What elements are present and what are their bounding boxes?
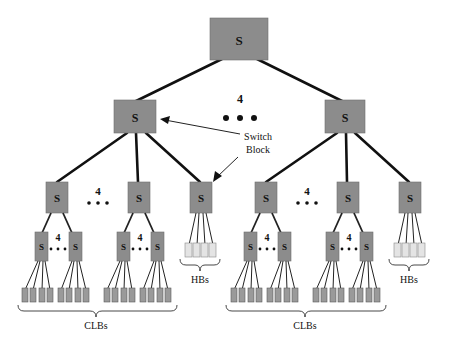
svg-text:S: S (136, 192, 142, 204)
switch-block-label-line1: Switch (244, 131, 272, 142)
svg-text:S: S (73, 242, 78, 252)
switch-hierarchy-diagram: S 4 Switch Block S S 4 S S (0, 0, 449, 343)
ellipsis-icon (50, 248, 67, 251)
ellipsis-icon (259, 248, 276, 251)
svg-text:S: S (39, 242, 44, 252)
arrow-icon (160, 116, 240, 182)
root-switch-label: S (235, 33, 242, 48)
svg-text:S: S (263, 192, 269, 204)
hbs-label-right: HBs (400, 274, 418, 285)
clb-wires (25, 261, 168, 290)
edge-root-left (134, 59, 222, 102)
ellipsis-icon (87, 201, 109, 205)
clbs-label-left: CLBs (84, 320, 107, 331)
svg-text:4: 4 (304, 185, 310, 197)
svg-text:4: 4 (95, 185, 101, 197)
clb-blocks-left (22, 288, 171, 302)
svg-text:S: S (364, 242, 369, 252)
svg-text:S: S (345, 192, 351, 204)
switch-block-label-line2: Block (246, 144, 270, 155)
svg-text:S: S (330, 242, 335, 252)
svg-text:S: S (121, 242, 126, 252)
svg-text:S: S (155, 242, 160, 252)
svg-text:S: S (54, 192, 60, 204)
svg-text:S: S (248, 242, 253, 252)
edge-root-right (257, 59, 344, 102)
root-switch: S (210, 18, 268, 60)
hb-wires (189, 213, 213, 245)
clb-blocks-right (231, 288, 380, 302)
ellipsis-icon (341, 248, 358, 251)
hb-brace-left (180, 259, 220, 271)
svg-text:4: 4 (56, 232, 61, 243)
svg-text:S: S (407, 192, 413, 204)
svg-text:S: S (132, 111, 139, 125)
ellipsis-icon (132, 248, 149, 251)
clb-brace-right (226, 305, 386, 317)
hb-blocks-left (185, 243, 216, 257)
svg-text:S: S (198, 192, 204, 204)
svg-text:4: 4 (138, 232, 143, 243)
left-subtree: S S 4 S S HBs S (18, 100, 220, 331)
ellipsis-icon (223, 115, 257, 121)
svg-text:S: S (342, 111, 349, 125)
ellipsis-icon (296, 201, 318, 205)
svg-text:4: 4 (265, 232, 270, 243)
svg-text:4: 4 (347, 232, 352, 243)
hb-brace-right (389, 259, 429, 271)
hbs-label-left: HBs (191, 274, 209, 285)
clbs-label-right: CLBs (293, 320, 316, 331)
hb-blocks-right (394, 243, 425, 257)
clb-brace-left (18, 305, 177, 317)
root-fanout-label: 4 (237, 92, 243, 106)
svg-text:S: S (282, 242, 287, 252)
